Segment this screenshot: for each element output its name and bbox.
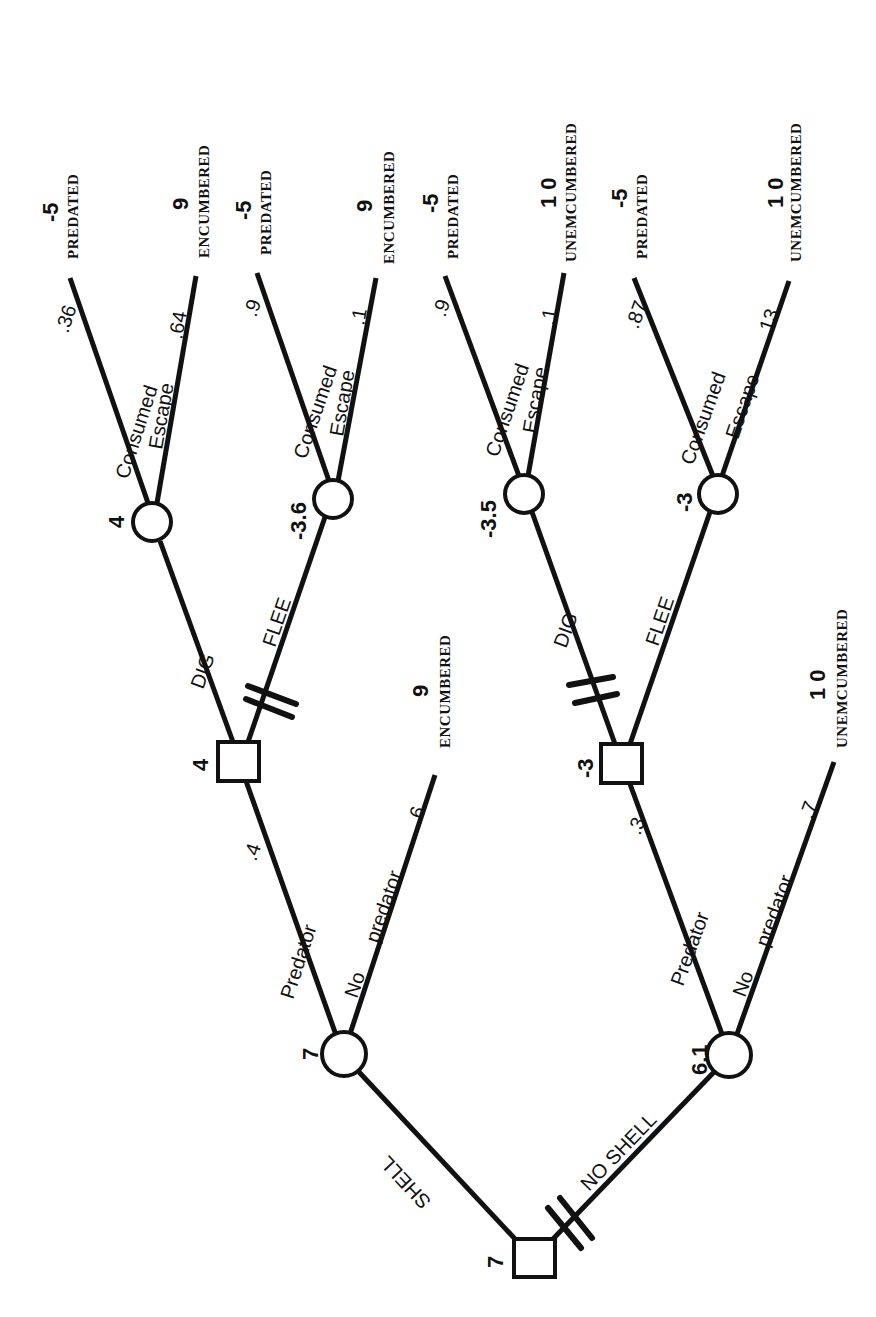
outcome-label-encumbered: ENCUMBERED [381,151,397,264]
s-dig-value: 4 [104,515,129,528]
outcome-value: -5 [607,188,632,208]
prob-s-flee-escape: .1 [346,306,371,326]
outcome-label-predated: PREDATED [258,170,274,255]
outcome-label-unemcumbered: UNEMCUMBERED [563,123,579,262]
hatch-mark-shell-flee [246,686,296,717]
outcome-label-predated: PREDATED [634,174,650,259]
outcome-value: -5 [418,193,443,213]
edges [70,273,834,1240]
outcome-value: 1 0 [763,177,788,208]
outcome-label-unemcumbered: UNEMCUMBERED [788,123,804,262]
prob-n-dig-consumed: .9 [428,296,454,319]
noshell-chance-value: 6.1 [687,1044,712,1075]
outcome-value: 9 [168,198,193,210]
decision-node-noshell-predator[interactable] [601,744,642,783]
noshell-decision-value: -3 [573,758,598,778]
decision-node-shell-predator[interactable] [218,742,259,781]
n-dig-value: -3.5 [476,500,501,538]
shell-chance-value: 7 [298,1048,323,1060]
branch-label-shell-predator-word: predator [361,867,406,945]
outcome-label-unemcumbered: UNEMCUMBERED [834,609,850,748]
outcome-label-encumbered: ENCUMBERED [196,145,212,258]
branch-label-noshell-predator: Predator [666,908,713,988]
outcome-value: 9 [352,200,377,212]
outcome-value: -5 [231,200,256,220]
outcome-value: 9 [408,685,433,697]
outcome-value: -5 [38,202,63,222]
prob-s-flee-consumed: .9 [239,296,265,319]
hatch-mark-noshell-dig [569,677,617,703]
chance-node-shell[interactable] [322,1032,366,1076]
outcome-label-predated: PREDATED [445,174,461,259]
prob-n-flee-consumed: .87 [621,298,651,332]
edge-s-dig-consumed [70,278,148,503]
edge-shell-dig [160,541,233,742]
branch-label-noshell-predator-word: predator [751,872,797,950]
outcome-value: 1 0 [805,669,830,700]
s-flee-value: -3.6 [286,502,311,540]
edge-noshell-flee [630,512,710,744]
edge-shell [359,1072,516,1240]
root-value: 7 [483,1256,508,1268]
branch-label-shell: SHELL [376,1152,435,1213]
n-flee-value: -3 [672,492,697,512]
chance-node-no-shell[interactable] [707,1033,751,1077]
prob-s-dig-consumed: .36 [51,302,81,335]
outcome-label-encumbered: ENCUMBERED [437,635,453,748]
branch-label-shell-predator: Predator [276,921,321,1001]
outcome-label-predated: PREDATED [65,174,81,259]
shell-decision-value: 4 [188,758,213,771]
decision-tree-diagram: 7 7 6.1 4 -3 4 -3.6 -3.5 -3 SHELL NO SHE… [0,0,876,1317]
chance-node-noshell-dig[interactable] [505,475,543,513]
branch-label-no-shell: NO SHELL [576,1108,661,1194]
decision-node-root[interactable] [514,1239,555,1277]
chance-node-shell-flee[interactable] [314,480,352,518]
outcome-value: 1 0 [536,177,561,208]
edge-shell-flee [248,517,325,742]
prob-noshell-predator: .3 [623,814,649,837]
prob-shell-predator: .4 [239,841,265,864]
chance-node-shell-dig[interactable] [133,503,171,541]
chance-node-noshell-flee[interactable] [699,475,737,513]
